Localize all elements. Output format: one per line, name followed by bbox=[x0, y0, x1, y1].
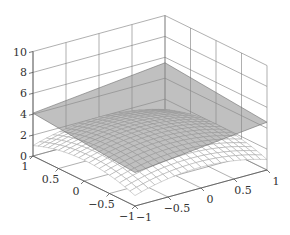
y-tick-label: −1 bbox=[119, 210, 135, 223]
x-tick bbox=[168, 197, 171, 200]
y-tick bbox=[81, 181, 84, 184]
y-tick bbox=[107, 194, 110, 197]
z-tick-label: 2 bbox=[20, 129, 27, 142]
x-tick-label: 0.5 bbox=[234, 184, 252, 197]
z-tick bbox=[29, 114, 33, 115]
y-tick-label: −0.5 bbox=[88, 198, 115, 211]
z-tick-label: 8 bbox=[20, 66, 27, 79]
z-tick bbox=[29, 135, 33, 136]
z-tick-label: 6 bbox=[20, 87, 27, 100]
x-tick-label: −0.5 bbox=[164, 202, 191, 215]
y-tick-label: 0.5 bbox=[42, 173, 60, 186]
z-tick-label: 10 bbox=[13, 46, 27, 59]
y-tick bbox=[56, 169, 59, 172]
y-tick bbox=[132, 206, 135, 209]
z-tick bbox=[29, 93, 33, 94]
x-tick bbox=[201, 188, 204, 191]
y-tick-label: 1 bbox=[22, 160, 29, 173]
x-tick-label: −1 bbox=[136, 211, 152, 224]
surface-plot-3d: 024681010.50−0.5−1−1−0.500.51 bbox=[0, 0, 290, 235]
z-tick-label: 4 bbox=[20, 108, 27, 121]
x-tick-label: 0 bbox=[207, 193, 214, 206]
x-tick-label: 1 bbox=[273, 175, 280, 188]
z-tick bbox=[29, 72, 33, 73]
z-tick bbox=[29, 52, 33, 53]
y-tick-label: 0 bbox=[73, 185, 80, 198]
x-tick bbox=[135, 206, 138, 209]
x-tick bbox=[234, 179, 237, 182]
x-tick bbox=[267, 170, 270, 173]
